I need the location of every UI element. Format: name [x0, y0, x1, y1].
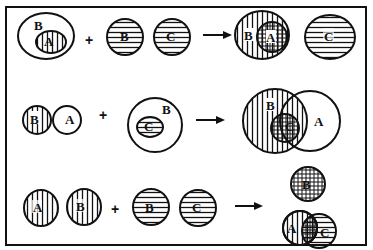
label-c: C: [320, 225, 329, 240]
r3-operand-c: C: [180, 190, 216, 226]
r3-operand-b2: B: [133, 189, 169, 225]
row-1: B A + B C B A C: [18, 11, 355, 59]
r2-operand-b-overlap-a: B A: [23, 106, 81, 134]
label-b: B: [34, 18, 43, 33]
r3-operand-b: B: [67, 189, 101, 225]
label-b: B: [302, 177, 311, 192]
r2-operand-c-subset-b: B C: [128, 98, 182, 152]
label-b: B: [266, 98, 275, 113]
plus-operator: +: [111, 201, 119, 217]
label-a: A: [287, 221, 297, 236]
r3-result: B A C: [283, 167, 336, 248]
r1-operand-a-subset-b: B A: [18, 13, 74, 59]
label-c: C: [144, 119, 153, 134]
label-c: C: [324, 29, 333, 44]
label-a: A: [65, 112, 75, 127]
label-a: A: [33, 200, 43, 215]
label-b: B: [76, 199, 85, 214]
label-b: B: [145, 200, 154, 215]
label-c: C: [166, 29, 175, 44]
arrow: [235, 202, 263, 210]
label-a: A: [314, 114, 324, 129]
label-b: B: [244, 28, 253, 43]
r2-result: B C A: [243, 89, 340, 153]
r1-result: B A C: [235, 11, 355, 59]
venn-diagram-figure: B A + B C B A C: [0, 0, 373, 250]
r1-operand-b: B: [107, 19, 143, 55]
label-a: A: [266, 30, 276, 45]
r1-operand-c: C: [154, 19, 190, 55]
label-a: A: [44, 34, 54, 49]
label-b: B: [30, 112, 39, 127]
label-b: B: [120, 29, 129, 44]
label-b: B: [162, 102, 171, 117]
arrow: [196, 116, 225, 124]
row-2: B A + B C B C A: [23, 89, 340, 153]
label-c: C: [192, 200, 201, 215]
row-3: A B + B C B A: [24, 167, 336, 248]
plus-operator: +: [99, 107, 107, 123]
r3-operand-a: A: [24, 190, 58, 226]
plus-operator: +: [85, 32, 93, 48]
arrow: [203, 31, 232, 39]
label-c: C: [285, 119, 294, 134]
